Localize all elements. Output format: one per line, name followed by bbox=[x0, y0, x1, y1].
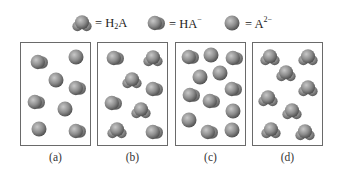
ha-molecule bbox=[201, 125, 218, 139]
ha-molecule bbox=[28, 95, 45, 109]
caption-d: (d) bbox=[252, 151, 323, 163]
h2a-molecule bbox=[131, 102, 150, 118]
h2a-molecule-icon bbox=[72, 13, 92, 33]
a-ion bbox=[69, 50, 84, 65]
legend-label-ha: = HA− bbox=[169, 15, 202, 32]
ha-molecule bbox=[182, 50, 199, 64]
ha-molecule bbox=[69, 124, 86, 138]
caption-b: (b) bbox=[97, 151, 168, 163]
panel-a-molecules bbox=[21, 43, 92, 147]
ha-molecule bbox=[105, 96, 122, 110]
ha-molecule bbox=[107, 51, 124, 65]
h2a-molecule bbox=[276, 65, 295, 81]
panel-c-molecules bbox=[176, 43, 247, 147]
panel-b-molecules bbox=[98, 43, 169, 147]
legend-label-h2a: = H2A bbox=[95, 16, 127, 31]
ha-molecule bbox=[146, 82, 163, 96]
h2a-molecule bbox=[143, 50, 162, 66]
legend-item-h2a: = H2A bbox=[72, 12, 127, 34]
a-ion bbox=[32, 122, 47, 137]
a-ion bbox=[182, 113, 197, 128]
caption-a: (a) bbox=[20, 151, 91, 163]
a-ion bbox=[225, 123, 240, 138]
h2a-molecule bbox=[107, 122, 126, 138]
ha-molecule bbox=[183, 88, 200, 102]
a-ion bbox=[58, 102, 73, 117]
legend-item-a: = A2− bbox=[222, 12, 272, 34]
a-ion bbox=[213, 66, 228, 81]
h2a-molecule bbox=[258, 90, 277, 106]
ha-molecule-icon bbox=[146, 13, 166, 33]
panel-d-molecules bbox=[253, 43, 324, 147]
legend-item-ha: = HA− bbox=[146, 12, 202, 34]
panel-b bbox=[97, 42, 168, 146]
ha-molecule bbox=[225, 82, 242, 96]
ha-molecule bbox=[203, 94, 220, 108]
h2a-molecule bbox=[260, 49, 279, 65]
a-ion-icon bbox=[222, 13, 242, 33]
a-ion bbox=[226, 104, 241, 119]
h2a-molecule bbox=[298, 49, 317, 65]
h2a-molecule bbox=[282, 103, 301, 119]
ha-molecule bbox=[146, 125, 163, 139]
ha-molecule bbox=[226, 51, 243, 65]
legend-label-a: = A2− bbox=[245, 15, 272, 32]
h2a-molecule bbox=[295, 124, 314, 140]
panel-a bbox=[20, 42, 91, 146]
h2a-molecule bbox=[122, 72, 141, 88]
h2a-molecule bbox=[261, 122, 280, 138]
a-ion bbox=[204, 48, 219, 63]
a-ion bbox=[49, 73, 64, 88]
ha-molecule bbox=[69, 81, 86, 95]
caption-c: (c) bbox=[175, 151, 246, 163]
panel-d bbox=[252, 42, 323, 146]
h2a-molecule bbox=[298, 80, 317, 96]
legend: = H2A = HA− = A2− bbox=[0, 12, 337, 34]
panel-c bbox=[175, 42, 246, 146]
ha-molecule bbox=[31, 55, 48, 69]
a-ion bbox=[193, 70, 208, 85]
